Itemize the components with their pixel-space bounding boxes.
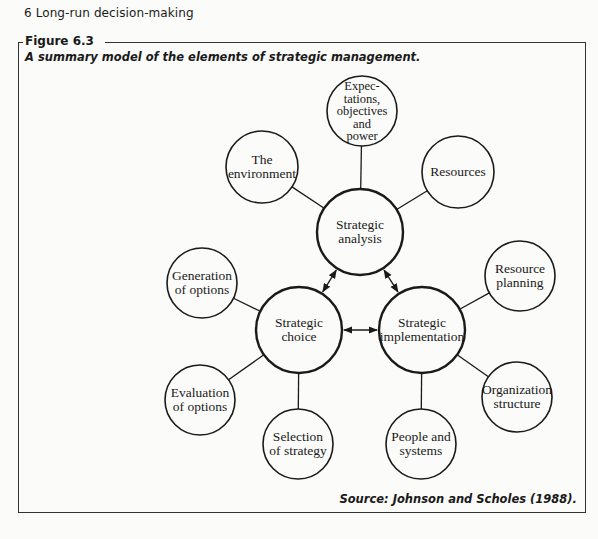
node-label-implementation: Strategic implementation: [380, 316, 465, 344]
node-label-generation: Generation of options: [172, 269, 232, 297]
diagram-edges: [229, 146, 490, 409]
node-label-people: People and systems: [391, 430, 451, 458]
double-arrow-analysis-implementation: [384, 270, 398, 292]
node-label-choice: Strategic choice: [275, 316, 323, 344]
connector-implementation-organization: [457, 355, 488, 377]
node-label-analysis: Strategic analysis: [336, 218, 384, 246]
node-label-selection: Selection of strategy: [269, 430, 326, 458]
node-label-resource_planning: Resource planning: [495, 262, 545, 290]
node-label-environment: The environment: [228, 153, 296, 181]
node-label-expectations: Expec- tations, objectives and power: [337, 80, 388, 143]
node-label-organization: Organization structure: [482, 383, 552, 411]
node-label-evaluation: Evaluation of options: [171, 386, 229, 414]
connector-choice-evaluation: [229, 355, 264, 380]
connector-choice-generation: [233, 298, 260, 311]
node-label-resources: Resources: [430, 165, 485, 179]
connector-analysis-resources: [397, 191, 428, 210]
double-arrow-analysis-choice: [323, 270, 336, 292]
connector-analysis-environment: [292, 187, 324, 208]
connector-implementation-resource_planning: [460, 293, 490, 309]
connector-analysis-expectations: [361, 146, 362, 189]
